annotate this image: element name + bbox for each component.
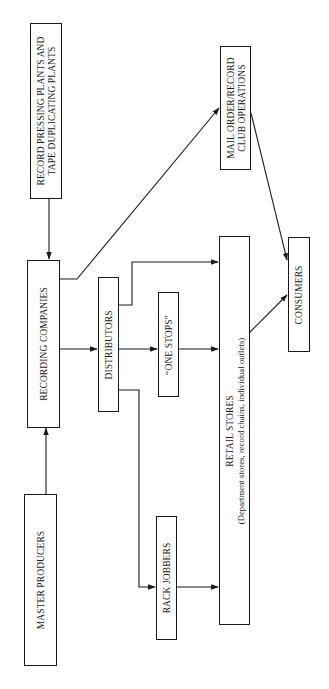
node-consumers: CONSUMERS (288, 237, 310, 352)
node-label-line1: MAIL ORDER/RECORD (225, 57, 236, 158)
node-mail-order-record-club: MAIL ORDER/RECORD CLUB OPERATIONS (220, 46, 251, 170)
node-label-line2: CLUB OPERATIONS (236, 57, 247, 158)
node-label: RETAIL STORES (224, 337, 235, 523)
edge-retail-to-consumers (249, 295, 287, 333)
node-label-line2: TAPE DUPLICATING PLANTS (46, 36, 57, 185)
edge-mailorder-to-consumers (251, 113, 287, 260)
node-label: MASTER PRODUCERS (35, 531, 46, 629)
node-distributors: DISTRIBUTORS (98, 277, 119, 412)
node-label: RECORDING COMPANIES (38, 287, 49, 401)
node-rack-jobbers: RACK JOBBERS (156, 516, 177, 640)
node-label-line1: RECORD PRESSING PLANTS AND (36, 36, 47, 185)
edge-recording-to-mailorder (60, 108, 219, 279)
node-label: RACK JOBBERS (161, 543, 172, 614)
node-retail-stores: RETAIL STORES (Department stores, record… (219, 236, 250, 625)
node-recording-companies: RECORDING COMPANIES (27, 260, 60, 428)
node-one-stops: “ONE STOPS” (158, 292, 179, 397)
edge-distributors-to-rackjobbers (118, 390, 155, 587)
node-sublabel: (Department stores, record chains, indiv… (235, 337, 246, 523)
node-label: CONSUMERS (294, 265, 305, 324)
node-label: DISTRIBUTORS (103, 310, 114, 379)
node-master-producers: MASTER PRODUCERS (24, 494, 57, 666)
node-label: “ONE STOPS” (163, 315, 174, 375)
node-record-pressing-plants: RECORD PRESSING PLANTS AND TAPE DUPLICAT… (30, 23, 62, 199)
distribution-flow-diagram: RECORD PRESSING PLANTS AND TAPE DUPLICAT… (0, 0, 329, 689)
